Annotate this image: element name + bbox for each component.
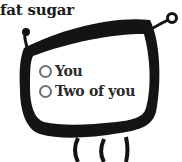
left-antenna-icon (25, 34, 27, 48)
leg-left (75, 138, 78, 162)
option-label: You (55, 63, 82, 79)
radio-button-icon[interactable] (39, 65, 52, 78)
option-two-of-you[interactable]: Two of you (39, 81, 135, 101)
radio-button-icon[interactable] (39, 85, 52, 98)
option-label: Two of you (55, 83, 135, 99)
brand-title: fat sugar (0, 1, 74, 19)
leg-right (126, 137, 128, 162)
poll-options: You Two of you (39, 61, 135, 101)
option-you[interactable]: You (39, 61, 135, 81)
leg-middle (101, 139, 104, 162)
